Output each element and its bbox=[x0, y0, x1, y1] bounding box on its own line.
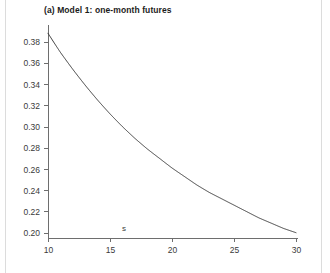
x-tick-label: 15 bbox=[106, 245, 115, 255]
plot-area: 0.200.220.240.260.280.300.320.340.360.38… bbox=[48, 29, 296, 238]
x-tick: 30 bbox=[296, 238, 297, 242]
x-tick-label: 10 bbox=[44, 245, 53, 255]
figure-panel: (a) Model 1: one-month futures 0.200.220… bbox=[0, 0, 330, 273]
y-tick-label: 0.22 bbox=[23, 207, 40, 217]
y-tick-label: 0.32 bbox=[23, 101, 40, 111]
x-tick-label: 20 bbox=[168, 245, 177, 255]
x-tick: 20 bbox=[172, 238, 173, 242]
x-tick: 25 bbox=[234, 238, 235, 242]
y-tick-label: 0.28 bbox=[23, 143, 40, 153]
y-tick-label: 0.24 bbox=[23, 186, 40, 196]
page-border-left bbox=[5, 0, 6, 273]
y-tick-label: 0.36 bbox=[23, 58, 40, 68]
x-tick: 15 bbox=[110, 238, 111, 242]
curve-plot bbox=[48, 29, 296, 238]
y-tick-label: 0.26 bbox=[23, 165, 40, 175]
x-tick-label: 30 bbox=[292, 245, 301, 255]
x-axis-label: s bbox=[122, 224, 126, 233]
y-tick-label: 0.30 bbox=[23, 122, 40, 132]
y-tick-label: 0.20 bbox=[23, 228, 40, 238]
chart-title: (a) Model 1: one-month futures bbox=[44, 5, 172, 15]
x-tick: 10 bbox=[48, 238, 49, 242]
page-border-right bbox=[321, 0, 322, 273]
y-tick-label: 0.34 bbox=[23, 80, 40, 90]
x-tick-label: 25 bbox=[230, 245, 239, 255]
y-tick-label: 0.38 bbox=[23, 37, 40, 47]
x-axis-spine bbox=[48, 238, 298, 239]
